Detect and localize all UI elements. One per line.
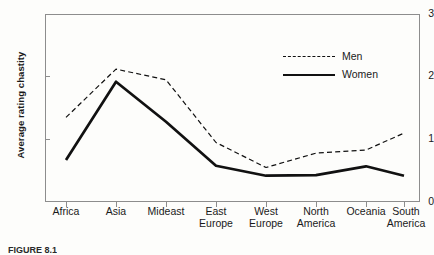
- figure-caption: FIGURE 8.1: [8, 245, 57, 255]
- figure-root: Average rating chastity 3 2 1 0 Africa A…: [0, 0, 434, 255]
- legend-swatch-dashed-icon: [283, 51, 335, 61]
- legend-label-men: Men: [342, 50, 362, 62]
- legend-swatch-solid-icon: [283, 69, 335, 79]
- data-layer: [0, 0, 434, 255]
- legend: Men Women: [283, 47, 378, 83]
- series-line-women: [66, 82, 404, 176]
- legend-label-women: Women: [342, 68, 378, 80]
- legend-entry-women: Women: [283, 65, 378, 83]
- legend-entry-men: Men: [283, 47, 378, 65]
